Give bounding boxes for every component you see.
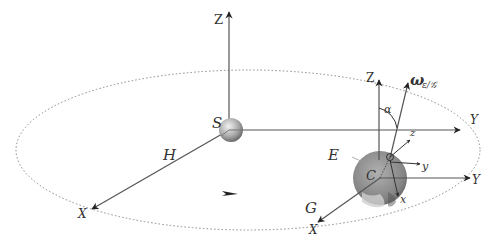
earth-z-label: Z (366, 71, 374, 85)
orbit-ellipse (16, 70, 480, 230)
local-z-label: z (409, 127, 416, 138)
local-y-label: y (421, 160, 429, 173)
sun-y-label: Y (470, 113, 479, 127)
earth-center-label: C (366, 168, 376, 183)
earth-y-label: Y (472, 173, 481, 187)
sun-x-label: X (77, 207, 87, 221)
heliocentric-frame-label: H (162, 146, 177, 164)
omega-axis (390, 83, 408, 158)
earth-x-label: X (308, 223, 318, 237)
omega-subscript: ε/𝒢 (422, 80, 438, 90)
orbit-direction-arrow-icon (222, 191, 238, 196)
earth-label: E (327, 146, 339, 164)
sun-label: S (212, 114, 222, 132)
local-z-axis (390, 140, 410, 157)
geocentric-frame-label: G (305, 199, 317, 217)
alpha-label: α (384, 103, 392, 116)
sun-z-label: Z (214, 12, 223, 27)
frames-diagram: Z X Y S H Z X Y E C G ω ε/𝒢 α z y x (0, 0, 488, 240)
sun-x-axis (92, 130, 229, 209)
local-x-label: x (400, 193, 407, 206)
